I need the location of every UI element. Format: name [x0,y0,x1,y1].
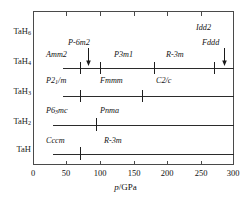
phase-label-tah4-fddd: Fddd [202,38,219,47]
y-label-tah2: TaH2 [0,117,31,127]
x-tick-label-100: 100 [85,168,115,178]
phase-label-tah4-r-3m: R-3m [166,50,184,59]
y-label-tah3: TaH3 [0,87,31,97]
y-label-tah2-sub: 2 [28,119,31,126]
phase-label-tah3-c2c: C2/c [156,76,171,85]
phase-label-tah6-idd2: Idd2 [196,23,211,32]
x-tick-label-150: 150 [119,168,149,178]
x-tick-150 [134,161,135,165]
boundary-tick-tah3-70 [80,90,81,102]
phase-label-tah1-cccm: Cccm [46,136,65,145]
baseline-tah4 [63,68,234,69]
boundary-tick-tah2-95 [96,118,97,131]
x-tick-label-0: 0 [18,168,48,178]
x-tick-top-200 [167,12,168,16]
y-label-tah2-text: TaH [13,116,28,126]
phase-label-tah4-p-6m2: P-6m2 [68,38,90,47]
phase-label-tah4-p3m1: P3m1 [114,50,133,59]
x-tick-top-150 [134,12,135,16]
x-tick-0 [33,161,34,165]
baseline-tah3 [63,96,234,97]
y-label-tah3-sub: 3 [28,89,31,96]
baseline-tah2 [53,125,234,126]
phase-label-tah3-p21m-base: P2 [46,76,55,85]
y-label-tah4-text: TaH [13,56,28,66]
phase-label-tah2-p63mc-tail: mc [58,106,68,115]
x-tick-top-250 [201,12,202,16]
x-tick-label-200: 200 [152,168,182,178]
x-axis-title-unit: /GPa [119,182,137,192]
y-label-tah6: TaH6 [0,27,31,37]
x-tick-50 [66,161,67,165]
x-tick-label-300: 300 [218,168,248,178]
boundary-tick-tah4-70 [80,62,81,74]
arrow-down-icon-tah4-fddd [221,48,228,66]
phase-label-tah3-fmmm: Fmmm [100,76,123,85]
x-tick-300 [233,161,234,165]
y-label-tah6-text: TaH [13,26,28,36]
phase-label-tah2-p63mc: P63mc [46,106,68,117]
x-tick-top-50 [66,12,67,16]
y-label-tah1: TaH [0,145,31,155]
x-tick-label-50: 50 [51,168,81,178]
x-axis-title: p/GPa [0,182,251,192]
y-label-tah3-text: TaH [13,86,28,96]
y-label-tah4-sub: 4 [28,59,31,66]
y-label-tah1-text: TaH [16,144,31,154]
boundary-tick-tah4-100 [100,62,101,74]
boundary-tick-tah4-180 [154,62,155,74]
x-tick-100 [100,161,101,165]
phase-label-tah2-pnma: Pnma [100,106,119,115]
phase-label-tah1-r-3m: R-3m [104,136,122,145]
phase-label-tah4-amm2: Amm2 [46,50,67,59]
boundary-tick-tah4-270 [214,62,215,74]
boundary-tick-tah1-70 [80,147,81,160]
x-tick-top-100 [100,12,101,16]
boundary-tick-tah3-163 [142,90,143,102]
phase-label-tah2-p63mc-base: P6 [46,106,55,115]
phase-label-tah3-p21m-tail: /m [58,76,66,85]
arrow-down-icon-tah4-p-6m2 [85,48,92,66]
x-tick-200 [167,161,168,165]
phase-diagram-figure: TaH6 TaH4 TaH3 TaH2 TaH Idd2 Amm2 P-6m2 … [0,0,251,203]
x-tick-250 [201,161,202,165]
x-tick-label-250: 250 [186,168,216,178]
phase-label-tah3-p21m: P21/m [46,76,66,87]
y-label-tah6-sub: 6 [28,29,31,36]
y-label-tah4: TaH4 [0,57,31,67]
